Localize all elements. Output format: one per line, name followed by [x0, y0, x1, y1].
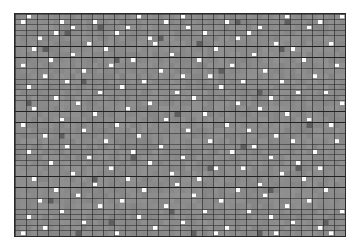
heatmap-plot-area[interactable] [14, 13, 346, 237]
heatmap-canvas[interactable] [15, 14, 345, 236]
figure-page [0, 0, 359, 248]
